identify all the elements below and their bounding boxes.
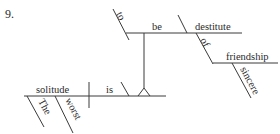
word-of: of [198,36,212,49]
sentence-diagram: 9. to be destitute of friendship sincere… [0,0,280,134]
word-to: to [114,10,128,22]
pedestal-left [138,88,144,96]
word-destitute: destitute [195,21,231,32]
word-is: is [106,84,113,95]
complement-slash [178,15,187,33]
word-worst: worst [63,96,84,122]
word-the: The [36,97,54,117]
word-friendship: friendship [226,51,269,62]
verb-complement-slash [121,82,129,96]
pedestal-right [144,88,150,96]
word-be: be [152,21,162,32]
exercise-number: 9. [5,7,14,21]
word-solitude: solitude [36,84,70,95]
